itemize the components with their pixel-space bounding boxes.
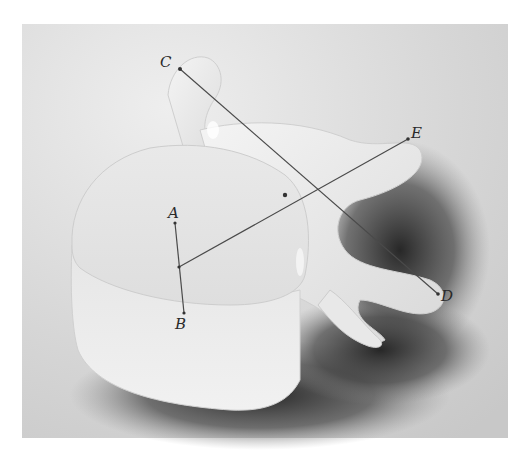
highlight (296, 248, 304, 276)
shadow-lower-right (270, 295, 490, 405)
vertebral-body-top (72, 145, 309, 305)
label-E: E (410, 124, 422, 142)
label-C: C (160, 53, 172, 71)
label-A: A (166, 204, 179, 222)
highlight (207, 121, 219, 139)
figure-canvas: A B C D E (0, 0, 525, 451)
intersection-marker (283, 193, 287, 197)
label-B: B (174, 315, 186, 333)
point-D-marker (436, 292, 440, 296)
vertebra-figure: A B C D E (0, 0, 525, 451)
junction-marker (177, 265, 180, 268)
point-E-marker (406, 137, 410, 141)
label-D: D (440, 287, 453, 305)
point-C-marker (178, 67, 182, 71)
